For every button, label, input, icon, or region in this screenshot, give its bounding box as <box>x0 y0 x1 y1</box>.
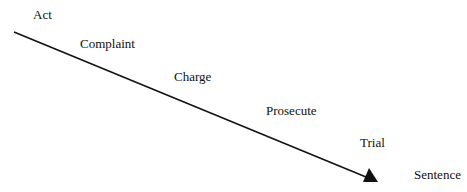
stage-charge: Charge <box>174 70 211 83</box>
stage-prosecute: Prosecute <box>266 104 317 117</box>
stage-complaint: Complaint <box>80 37 135 50</box>
stage-trial: Trial <box>360 136 385 149</box>
stage-sentence: Sentence <box>414 168 461 181</box>
diagram-canvas: Act Complaint Charge Prosecute Trial Sen… <box>0 0 467 192</box>
process-arrow <box>0 0 467 192</box>
stage-act: Act <box>33 8 52 21</box>
arrowhead-icon <box>363 168 378 182</box>
